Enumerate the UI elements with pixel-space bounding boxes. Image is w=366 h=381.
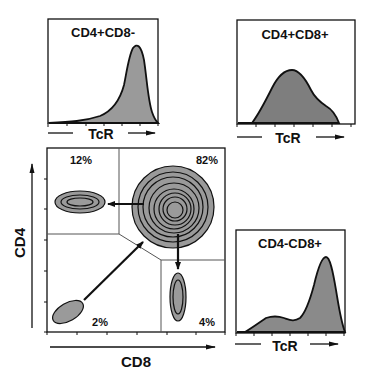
histogram-cd4-cd8neg: CD4+CD8- TcR <box>48 19 158 142</box>
histogram-title: CD4+CD8+ <box>261 27 329 42</box>
quadrant-label-bottom-right: 4% <box>199 316 215 328</box>
histogram-title: CD4-CD8+ <box>258 236 322 251</box>
histogram-xlabel: TcR <box>272 338 297 354</box>
contour-cd8-single-positive <box>170 273 186 321</box>
y-axis-label: CD4 <box>11 227 28 258</box>
quadrant-label-top-right: 82% <box>196 154 218 166</box>
histogram-cd4neg-cd8pos: CD4-CD8+ TcR <box>235 230 345 354</box>
contour-dotplot: 12% 82% 2% 4% <box>44 148 225 335</box>
histogram-xlabel: TcR <box>88 126 113 142</box>
figure: CD4+CD8- TcR CD4+CD8+ TcR CD4-CD8+ <box>0 0 366 381</box>
contour-double-positive <box>132 166 214 248</box>
contour-cd4-single-positive <box>55 191 105 213</box>
histogram-cd4-cd8pos: CD4+CD8+ TcR <box>237 20 355 146</box>
histogram-title: CD4+CD8- <box>71 25 135 40</box>
quadrant-label-bottom-left: 2% <box>92 316 108 328</box>
x-axis-label: CD8 <box>121 353 151 370</box>
quadrant-label-top-left: 12% <box>70 154 92 166</box>
histogram-xlabel: TcR <box>275 130 300 146</box>
